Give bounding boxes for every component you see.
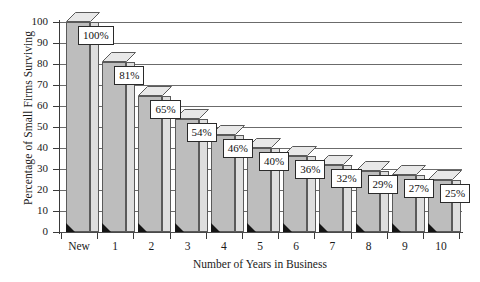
bar-base-wedge <box>356 223 365 232</box>
bar <box>66 13 99 232</box>
bar-value-label: 65% <box>150 100 180 119</box>
y-axis-tick-label: 20 <box>14 184 48 195</box>
y-axis-tick-label: 100 <box>14 16 48 27</box>
x-axis-tick <box>61 233 62 239</box>
bar-top-face <box>392 165 426 175</box>
x-axis-tick <box>278 233 279 239</box>
bar-top-face <box>102 52 136 62</box>
gridline <box>60 232 462 233</box>
bar-value-label: 27% <box>404 179 434 198</box>
y-axis-tick <box>53 64 60 65</box>
gridline <box>60 22 462 23</box>
bar-top-face <box>138 86 172 96</box>
bar-top-face <box>66 12 100 22</box>
x-axis-tick <box>170 233 171 239</box>
y-axis-tick <box>53 169 60 170</box>
y-axis-tick <box>53 85 60 86</box>
y-axis-tick-label: 90 <box>14 37 48 48</box>
bar-base-wedge <box>247 223 256 232</box>
y-axis-tick <box>53 43 60 44</box>
y-axis-tick-label: 60 <box>14 100 48 111</box>
y-axis-tick-label: 80 <box>14 58 48 69</box>
bar-value-label: 100% <box>78 26 114 45</box>
x-axis-tick <box>314 233 315 239</box>
bar-value-label: 46% <box>223 139 253 158</box>
x-axis-tick <box>459 233 460 239</box>
gridline <box>60 43 462 44</box>
x-axis-tick <box>242 233 243 239</box>
bar-value-label: 25% <box>440 184 470 203</box>
bar-side-face <box>90 22 99 232</box>
x-axis-tick <box>423 233 424 239</box>
x-axis-tick <box>387 233 388 239</box>
y-axis-tick <box>53 190 60 191</box>
y-axis-tick-label: 30 <box>14 163 48 174</box>
bar-base-wedge <box>428 223 437 232</box>
bar-base-wedge <box>211 223 220 232</box>
bar-value-label: 40% <box>259 152 289 171</box>
bar-side-face <box>126 62 135 232</box>
y-axis-tick <box>53 232 60 233</box>
y-axis-tick <box>53 106 60 107</box>
y-axis-tick-label: 40 <box>14 142 48 153</box>
bar-front-face <box>102 62 126 232</box>
bar-chart: Percentage of Small Firms Surviving 0102… <box>0 0 480 282</box>
x-axis-tick <box>351 233 352 239</box>
bar-value-label: 29% <box>368 175 398 194</box>
x-axis-tick-label: 10 <box>417 240 465 252</box>
x-axis-tick <box>206 233 207 239</box>
y-axis-tick <box>53 211 60 212</box>
y-axis-tick-label: 70 <box>14 79 48 90</box>
bar-value-label: 54% <box>187 123 217 142</box>
bar-top-face <box>428 170 462 180</box>
y-axis-tick-label: 0 <box>14 226 48 237</box>
y-axis-tick-label: 10 <box>14 205 48 216</box>
bar-value-label: 81% <box>114 66 144 85</box>
bar-base-wedge <box>138 223 147 232</box>
bar-base-wedge <box>175 223 184 232</box>
bar-base-wedge <box>66 223 75 232</box>
bar-base-wedge <box>392 223 401 232</box>
bar-value-label: 32% <box>331 169 361 188</box>
bar-base-wedge <box>319 223 328 232</box>
bar-value-label: 36% <box>295 160 325 179</box>
bar-base-wedge <box>102 223 111 232</box>
x-axis-tick <box>97 233 98 239</box>
y-axis-tick-label: 50 <box>14 121 48 132</box>
x-axis-title: Number of Years in Business <box>60 258 460 270</box>
plot-area <box>60 22 462 232</box>
bar-front-face <box>66 22 90 232</box>
y-axis-tick <box>53 22 60 23</box>
y-axis-tick <box>53 148 60 149</box>
y-axis-tick <box>53 127 60 128</box>
bar-base-wedge <box>283 223 292 232</box>
x-axis-tick <box>133 233 134 239</box>
